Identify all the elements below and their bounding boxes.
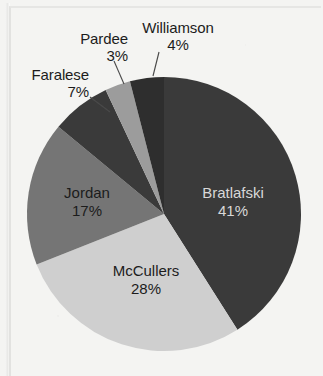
slice-label-pardee-name: Pardee xyxy=(80,30,128,47)
slice-label-bratlafski-percent: 41% xyxy=(218,202,248,219)
slice-label-jordan: Jordan 17% xyxy=(45,184,129,220)
slice-label-faralese-percent: 7% xyxy=(11,83,89,100)
slice-label-jordan-percent: 17% xyxy=(72,202,102,219)
slice-label-faralese: Faralese 7% xyxy=(11,66,89,100)
leader-line-williamson xyxy=(153,52,159,76)
slice-label-bratlafski: Bratlafski 41% xyxy=(186,184,280,220)
slice-label-williamson-name: Williamson xyxy=(142,19,214,36)
slice-label-mccullers-percent: 28% xyxy=(131,280,161,297)
slice-label-williamson-percent: 4% xyxy=(134,36,222,53)
slice-label-pardee-percent: 3% xyxy=(70,47,128,64)
slice-label-mccullers-name: McCullers xyxy=(113,262,180,279)
slice-label-faralese-name: Faralese xyxy=(31,66,89,83)
slice-label-jordan-name: Jordan xyxy=(64,184,110,201)
slice-label-pardee: Pardee 3% xyxy=(70,30,128,64)
leader-line-pardee xyxy=(114,61,124,84)
slice-label-bratlafski-name: Bratlafski xyxy=(202,184,264,201)
slice-label-williamson: Williamson 4% xyxy=(134,19,222,53)
pie-chart-figure: Faralese 7% Pardee 3% Williamson 4% Brat… xyxy=(0,0,323,376)
slice-label-mccullers: McCullers 28% xyxy=(91,262,201,298)
